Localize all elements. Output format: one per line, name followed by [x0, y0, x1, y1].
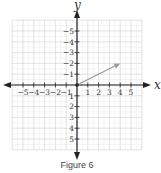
x-tick-label: −4 — [28, 88, 39, 97]
y-tick-label: −4 — [63, 38, 74, 47]
y-tick-label: 4 — [69, 124, 74, 133]
x-tick-label: 3 — [107, 88, 112, 97]
x-axis-left-arrow-icon — [3, 82, 11, 88]
x-tick-label: 2 — [96, 88, 101, 97]
x-tick-label: −3 — [39, 88, 50, 97]
y-tick-label: −5 — [63, 27, 74, 36]
y-tick-label: −3 — [63, 48, 74, 57]
x-axis-right-arrow-icon — [143, 82, 151, 88]
y-tick-label: −1 — [63, 70, 74, 79]
figure-caption: Figure 6 — [0, 160, 154, 170]
coordinate-plane: −5−4−3−2−112345 54321−1−2−3−4−5 x y — [0, 0, 161, 173]
y-axis-down-arrow-icon — [74, 152, 80, 160]
y-tick-label: 2 — [69, 102, 74, 111]
y-tick-label: 3 — [69, 113, 74, 122]
origin-point — [75, 83, 79, 87]
y-tick-label: −2 — [63, 59, 74, 68]
x-tick-label: 4 — [118, 88, 123, 97]
y-axis-label: y — [73, 0, 81, 12]
x-tick-label: 1 — [85, 88, 90, 97]
y-tick-label: 1 — [69, 92, 74, 101]
y-tick-label: 5 — [69, 135, 74, 144]
x-tick-label: −2 — [50, 88, 61, 97]
x-tick-label: 5 — [129, 88, 134, 97]
x-axis-label: x — [154, 78, 161, 92]
x-tick-label: −5 — [17, 88, 28, 97]
